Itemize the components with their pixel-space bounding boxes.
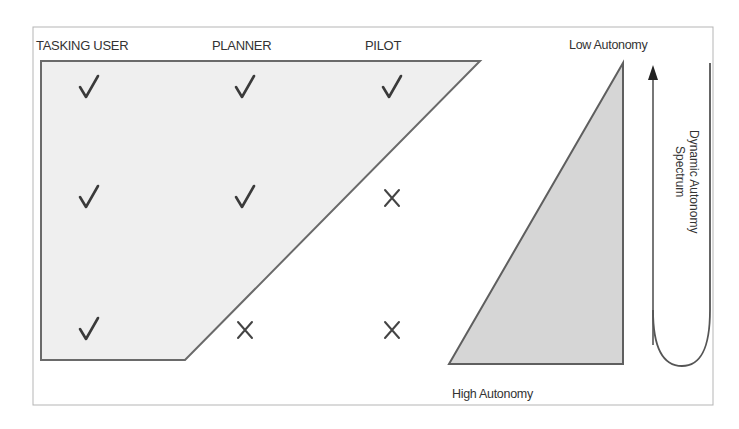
column-label-tasking-user: TASKING USER bbox=[36, 38, 128, 53]
spectrum-label-line2: Spectrum bbox=[673, 146, 687, 197]
autonomy-diagram: TASKING USER PLANNER PILOT Low Autonomy … bbox=[0, 0, 739, 429]
x-mark-icon bbox=[238, 322, 252, 338]
spectrum-arrow-head bbox=[648, 65, 658, 80]
high-autonomy-label: High Autonomy bbox=[452, 387, 534, 401]
x-mark-icon bbox=[385, 322, 399, 338]
spectrum-label-line1: Dynamic Autonomy bbox=[687, 130, 701, 233]
arrow-up-icon bbox=[648, 65, 658, 345]
spectrum-label-group: Dynamic Autonomy Spectrum bbox=[673, 130, 701, 233]
column-label-planner: PLANNER bbox=[212, 38, 271, 53]
low-autonomy-label: Low Autonomy bbox=[569, 38, 648, 52]
authority-region-shape bbox=[41, 61, 480, 360]
autonomy-level-triangle bbox=[449, 63, 623, 364]
x-mark-icon bbox=[385, 190, 399, 206]
column-label-pilot: PILOT bbox=[365, 38, 401, 53]
